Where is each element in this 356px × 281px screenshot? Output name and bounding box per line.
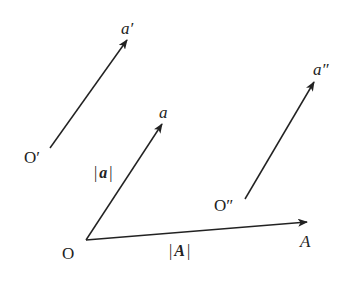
label-origin-prime: O′: [24, 149, 40, 166]
vector-a-prime-arrow: [50, 40, 127, 148]
label-a: a: [159, 104, 168, 121]
label-magnitude-a: |a|: [92, 165, 114, 181]
label-origin: O: [62, 245, 74, 262]
magnitude-a-symbol: a: [99, 164, 107, 181]
label-A: A: [300, 233, 310, 250]
abs-bar-right: |: [109, 165, 112, 181]
vector-a-double-prime-arrow: [245, 82, 314, 199]
label-magnitude-A: |A|: [167, 243, 192, 259]
vector-a-arrow: [86, 124, 162, 240]
label-a-double-prime: a″: [313, 61, 329, 78]
magnitude-A-symbol: A: [174, 242, 185, 259]
vector-A-arrow: [86, 222, 307, 240]
abs-bar-left: |: [94, 165, 97, 181]
label-origin-double-prime: O″: [214, 197, 233, 214]
abs-bar-right: |: [187, 243, 190, 259]
abs-bar-left: |: [169, 243, 172, 259]
label-a-prime: a′: [121, 20, 133, 37]
